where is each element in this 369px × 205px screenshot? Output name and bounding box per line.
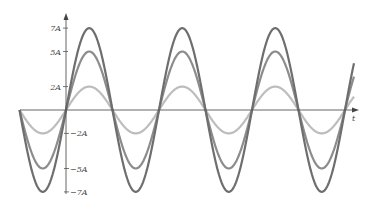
x-axis-arrow-icon (352, 108, 359, 113)
y-tick-label: −5A (70, 165, 88, 174)
chart-plot: 7A5A2A−2A−5A−7A t (0, 0, 369, 205)
y-tick-label: 5A (50, 48, 61, 57)
y-axis-arrow-icon (64, 13, 69, 20)
y-tick-label: 7A (50, 24, 61, 33)
y-ticks: 7A5A2A−2A−5A−7A (49, 24, 88, 197)
x-axis-label: t (352, 114, 356, 123)
y-tick-label: 2A (49, 83, 61, 92)
y-tick-label: −2A (70, 129, 88, 138)
y-tick-label: −7A (70, 188, 88, 197)
